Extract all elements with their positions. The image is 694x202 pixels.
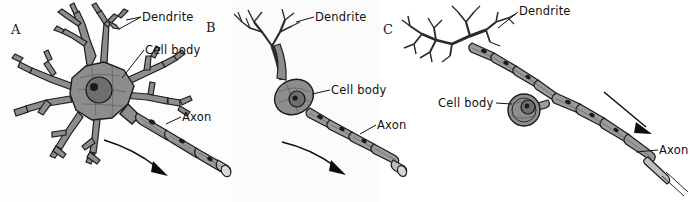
panel-letter-a: A [11,22,20,37]
panel-a-nucleus [86,77,112,103]
panel-b-label-axon: Axon [377,118,406,132]
neuron-types-figure: A B C Dendrite Cell body Axon Dendrite C… [0,0,694,202]
panel-a-label-cell-body: Cell body [145,43,200,57]
panel-a-nucleolus [90,83,98,91]
panel-a-label-dendrite: Dendrite [142,10,194,24]
panel-b-label-cell-body: Cell body [331,83,386,97]
figure-canvas [0,0,694,202]
panel-letter-c: C [383,22,393,37]
panel-c-label-dendrite: Dendrite [519,4,571,18]
panel-b-label-dendrite: Dendrite [315,10,367,24]
panel-a-label-axon: Axon [182,110,211,124]
panel-c-label-axon: Axon [659,143,688,157]
panel-c-nucleolus [525,104,530,109]
panel-c-label-cell-body: Cell body [438,96,493,110]
panel-b-nucleolus [292,95,297,100]
panel-letter-b: B [206,20,216,35]
